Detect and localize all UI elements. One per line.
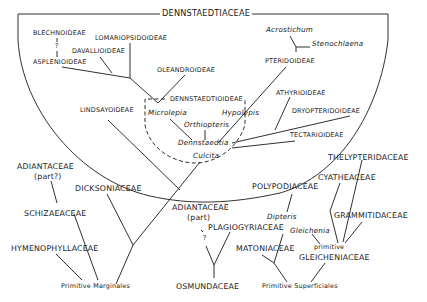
label-adiantaceae-left: ADIANTACEAE [17, 163, 74, 171]
label-thelypteridaceae: THELYPTERIDACEAE [328, 154, 409, 162]
label-schizaeaceae: SCHIZAEACEAE [24, 210, 86, 218]
label-cyatheaceae: CYATHEACEAE [318, 174, 376, 182]
label-hypolepis: Hypolepis [222, 109, 259, 116]
label-tectarioideae: TECTARIOIDEAE [290, 132, 343, 138]
question-mark-1: ? [55, 43, 59, 49]
label-polypodiaceae: POLYPODIACEAE [252, 183, 318, 191]
label-primitive-marginales: Primitive Marginales [61, 283, 130, 289]
label-hymenophyllaceae: HYMENOPHYLLACEAE [11, 245, 98, 253]
label-adiantaceae-middle-note: (part) [187, 214, 210, 222]
label-blechnoideae: BLECHNOIDEAE [33, 30, 86, 36]
question-mark-2: ? [203, 235, 207, 241]
label-culcita: Culcita [193, 152, 219, 159]
label-matoniaceae: MATONIACEAE [236, 245, 295, 253]
label-lindsayoideae: LINDSAYOIDEAE [80, 107, 134, 113]
label-oleandroideae: OLEANDROIDEAE [157, 67, 215, 73]
label-microlepia: Microlepia [148, 109, 187, 116]
label-adiantaceae-left-note: (part?) [34, 173, 62, 181]
label-athyrioideae: ATHYRIOIDEAE [276, 90, 326, 96]
label-dennstaedtioideae: DENNSTAEDTIOIDEAE [169, 96, 244, 102]
label-pteridoideae: PTERIDOIDEAE [265, 58, 315, 64]
label-lomariopsidoideae: LOMARIOPSIDOIDEAE [95, 35, 167, 41]
label-primitive-superficiales: Primitive Superficiales [262, 283, 338, 289]
label-dicksoniaceae: DICKSONIACEAE [75, 185, 142, 193]
label-asplenioideae: ASPLENIOIDEAE [33, 59, 86, 65]
label-adiantaceae-middle: ADIANTACEAE [172, 204, 229, 212]
label-plagiogyriaceae: PLAGIOGYRIACEAE [208, 224, 284, 232]
label-primitive: primitive [314, 244, 344, 250]
label-osmundaceae: OSMUNDACEAE [176, 283, 239, 291]
label-dennstaedtia: Dennstaedtia [178, 139, 229, 146]
label-gleicheniaceae: GLEICHENIACEAE [299, 254, 370, 262]
label-grammitidaceae: GRAMMITIDACEAE [334, 212, 408, 220]
label-davallioideae: DAVALLIOIDEAE [72, 48, 125, 54]
label-dryopteridoideae: DRYOPTERIDOIDEAE [292, 108, 360, 114]
label-stenochlaena: Stenochlaena [312, 40, 363, 47]
label-gleichenia: Gleichenia [290, 227, 330, 234]
title-dennstaedtiaceae: DENNSTAEDTIACEAE [160, 9, 252, 17]
label-dipteris: Dipteris [267, 213, 297, 220]
label-acrostichum: Acrostichum [266, 26, 313, 33]
label-orthiopteris: Orthiopteris [184, 121, 229, 128]
